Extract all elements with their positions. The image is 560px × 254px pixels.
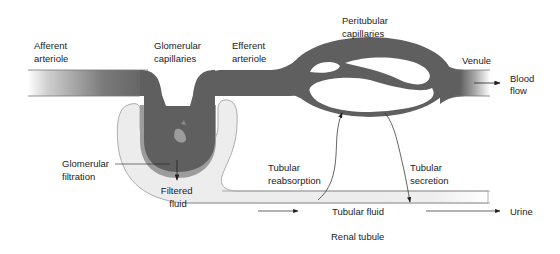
label-tubular-fluid: Tubular fluid [332,206,384,217]
afferent-arteriole [28,70,154,96]
label-glomerular-filtration: Glomerular filtration [62,158,112,182]
label-blood-flow: Blood flow [510,73,537,96]
diagram-canvas: Afferent arteriole Glomerular capillarie… [0,0,560,254]
label-efferent-arteriole: Efferent arteriole [232,40,268,64]
label-glomerular-capillaries: Glomerular capillaries [154,40,204,64]
peritubular-inlet [268,58,300,98]
label-renal-tubule: Renal tubule [331,231,384,242]
nephron-diagram: Afferent arteriole Glomerular capillarie… [0,0,560,254]
label-venule: Venule [462,55,491,66]
label-urine: Urine [510,206,533,217]
reabsorption-arrow [318,113,342,200]
label-tubular-secretion: Tubular secretion [410,162,449,186]
label-afferent-arteriole: Afferent arteriole [34,40,70,64]
secretion-arrow [385,113,410,202]
label-tubular-reabsorption: Tubular reabsorption [268,162,321,186]
label-peritubular-capillaries: Peritubular capillaries [342,15,391,39]
